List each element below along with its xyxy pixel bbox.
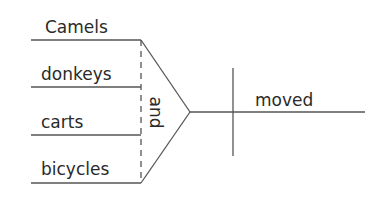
subject-word-2: donkeys (41, 66, 112, 83)
verb-word: moved (255, 92, 313, 109)
subject-word-3: carts (41, 114, 83, 131)
subject-word-4: bicycles (41, 161, 109, 178)
subject-word-1: Camels (45, 19, 108, 36)
conjunction-word: and (147, 97, 164, 129)
